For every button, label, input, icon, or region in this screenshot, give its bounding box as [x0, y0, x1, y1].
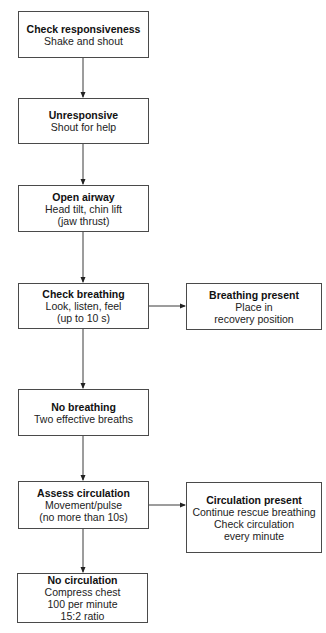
- node-title: Open airway: [52, 191, 114, 203]
- node-text: Head tilt, chin lift: [45, 203, 122, 215]
- node-text: Check circulation: [214, 518, 294, 530]
- node-title: No breathing: [51, 401, 116, 413]
- node-text: Shout for help: [51, 121, 116, 133]
- node-assess-circulation: Assess circulation Movement/pulse (no mo…: [18, 481, 149, 529]
- node-open-airway: Open airway Head tilt, chin lift (jaw th…: [18, 185, 149, 232]
- node-title: Unresponsive: [49, 109, 118, 121]
- node-text: every minute: [224, 530, 284, 542]
- node-check-responsiveness: Check responsiveness Shake and shout: [18, 11, 149, 58]
- node-text: (jaw thrust): [58, 215, 110, 227]
- node-no-circulation: No circulation Compress chest 100 per mi…: [17, 573, 148, 623]
- node-text: (up to 10 s): [57, 312, 110, 324]
- node-title: Circulation present: [206, 494, 302, 506]
- node-text: Place in: [235, 301, 272, 313]
- node-breathing-present: Breathing present Place in recovery posi…: [186, 283, 322, 330]
- node-no-breathing: No breathing Two effective breaths: [18, 389, 149, 436]
- node-text: recovery position: [214, 313, 293, 325]
- node-text: Look, listen, feel: [46, 300, 122, 312]
- node-unresponsive: Unresponsive Shout for help: [18, 98, 149, 144]
- node-title: Assess circulation: [37, 487, 130, 499]
- node-title: Check responsiveness: [27, 23, 141, 35]
- node-text: (no more than 10s): [39, 511, 128, 523]
- node-text: Compress chest: [45, 586, 121, 598]
- node-text: 15:2 ratio: [61, 610, 105, 622]
- node-text: Shake and shout: [44, 35, 123, 47]
- node-text: Two effective breaths: [34, 413, 133, 425]
- node-text: Movement/pulse: [45, 499, 122, 511]
- node-title: Breathing present: [209, 289, 299, 301]
- node-title: No circulation: [47, 574, 117, 586]
- node-check-breathing: Check breathing Look, listen, feel (up t…: [18, 283, 149, 329]
- node-circulation-present: Circulation present Continue rescue brea…: [186, 482, 322, 553]
- node-title: Check breathing: [42, 288, 124, 300]
- node-text: 100 per minute: [47, 598, 117, 610]
- node-text: Continue rescue breathing: [192, 506, 315, 518]
